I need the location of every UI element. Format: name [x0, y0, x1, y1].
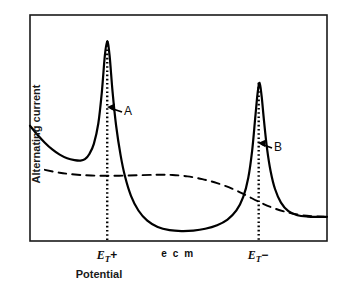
- et-plus-sign: +: [110, 248, 117, 262]
- chart-figure: [0, 0, 347, 288]
- x-tick-label-ecm: e c m: [148, 248, 208, 259]
- x-tick-label-et-plus: ET+: [82, 248, 132, 264]
- x-axis-label-text: Potential: [76, 268, 122, 280]
- annotation-label-a: A: [124, 104, 132, 118]
- et-minus-symbol: E: [248, 248, 256, 262]
- x-tick-label-et-minus: ET−: [233, 248, 283, 264]
- y-axis-label: Alternating current: [30, 54, 42, 214]
- et-minus-sign: −: [261, 248, 268, 262]
- et-plus-symbol: E: [97, 248, 105, 262]
- chart-background: [0, 0, 347, 288]
- x-axis-label: Potential: [0, 268, 347, 280]
- annotation-label-b: B: [274, 140, 282, 154]
